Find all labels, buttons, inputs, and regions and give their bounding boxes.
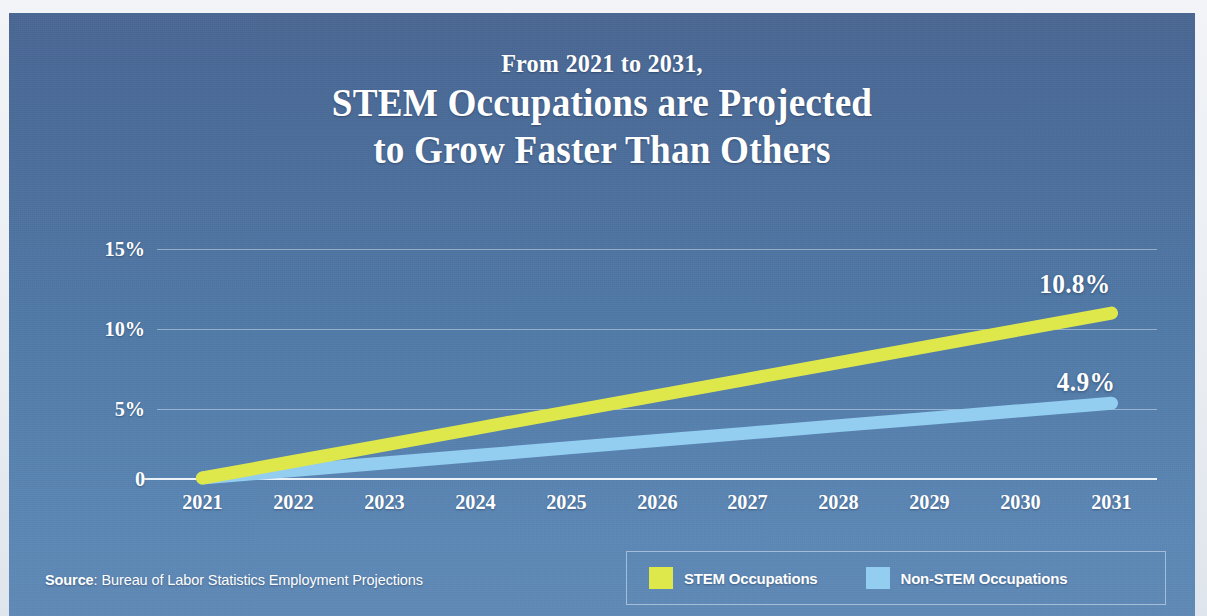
source-label: Source bbox=[45, 572, 94, 588]
legend-item-stem[interactable]: STEM Occupations bbox=[649, 567, 818, 589]
x-axis-label-2028: 2028 bbox=[797, 489, 881, 519]
x-axis-label-2025: 2025 bbox=[524, 489, 608, 519]
y-axis-label-10: 10% bbox=[35, 316, 145, 342]
legend-swatch-non-stem-icon bbox=[866, 567, 890, 589]
x-axis-label-2024: 2024 bbox=[433, 489, 517, 519]
line-series-stem bbox=[202, 313, 1111, 478]
legend-label-stem: STEM Occupations bbox=[684, 570, 818, 587]
chart-title-block: From 2021 to 2031, STEM Occupations are … bbox=[9, 49, 1195, 173]
series-lines bbox=[157, 241, 1157, 486]
x-axis-label-2022: 2022 bbox=[252, 489, 336, 519]
legend-item-non-stem[interactable]: Non-STEM Occupations bbox=[866, 567, 1068, 589]
infographic-panel: From 2021 to 2031, STEM Occupations are … bbox=[9, 13, 1195, 616]
x-axis-label-2029: 2029 bbox=[888, 489, 972, 519]
y-axis-label-0: 0 bbox=[35, 466, 145, 492]
line-series-non-stem bbox=[202, 403, 1111, 478]
title-line-2: to Grow Faster Than Others bbox=[51, 127, 1154, 173]
x-axis: 2021 2022 2023 2024 2025 2026 2027 2028 … bbox=[157, 489, 1157, 519]
legend-label-non-stem: Non-STEM Occupations bbox=[901, 570, 1068, 587]
source-note: Source: Bureau of Labor Statistics Emplo… bbox=[45, 572, 423, 588]
legend: STEM Occupations Non-STEM Occupations bbox=[626, 551, 1166, 605]
legend-swatch-stem-icon bbox=[649, 567, 673, 589]
y-axis-label-5: 5% bbox=[35, 396, 145, 422]
x-axis-label-2023: 2023 bbox=[342, 489, 426, 519]
value-callout-stem: 10.8% bbox=[1039, 269, 1110, 300]
title-line-1: STEM Occupations are Projected bbox=[51, 80, 1154, 126]
source-text: : Bureau of Labor Statistics Employment … bbox=[94, 572, 423, 588]
zero-tick-mark bbox=[143, 478, 157, 480]
x-axis-label-2021: 2021 bbox=[161, 489, 245, 519]
x-axis-label-2026: 2026 bbox=[615, 489, 699, 519]
page-title: STEM Occupations are Projected to Grow F… bbox=[51, 80, 1154, 173]
scan-page: From 2021 to 2031, STEM Occupations are … bbox=[0, 0, 1207, 616]
title-kicker: From 2021 to 2031, bbox=[51, 49, 1154, 78]
value-callout-non-stem: 4.9% bbox=[1057, 367, 1115, 398]
y-axis-label-15: 15% bbox=[35, 236, 145, 262]
x-axis-label-2031: 2031 bbox=[1070, 489, 1154, 519]
plot-area: 15% 10% 5% 0 10.8% 4.9% bbox=[157, 241, 1157, 486]
x-axis-label-2030: 2030 bbox=[979, 489, 1063, 519]
x-axis-label-2027: 2027 bbox=[706, 489, 790, 519]
